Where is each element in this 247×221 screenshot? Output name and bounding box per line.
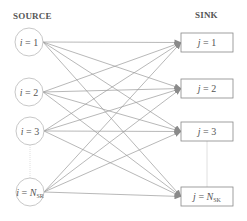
sink-label: j = 2 <box>196 83 216 94</box>
source-label: i = 3 <box>21 126 39 137</box>
edge-arrow <box>43 92 181 132</box>
source-node: i = NSR <box>16 178 44 206</box>
ellipsis-connectors <box>30 141 207 187</box>
edge-arrow <box>43 89 181 93</box>
source-label: i = 2 <box>20 87 38 98</box>
edge-arrow <box>43 43 181 93</box>
source-node: i = 2 <box>15 78 43 106</box>
bipartite-diagram: i = 1i = 2i = 3i = NSR j = 1j = 2j = 3j … <box>0 0 247 221</box>
edge-arrow <box>44 43 181 193</box>
source-nodes: i = 1i = 2i = 3i = NSR <box>15 28 44 206</box>
sink-label: j = 3 <box>196 126 216 137</box>
sink-node: j = 2 <box>181 79 233 98</box>
edge-arrow <box>43 92 181 197</box>
edges <box>43 42 181 197</box>
edge-arrow <box>43 42 181 43</box>
sink-node: j = NSK <box>181 187 233 206</box>
source-node: i = 3 <box>16 117 44 145</box>
sink-node: j = 1 <box>181 33 233 52</box>
sink-label: j = 1 <box>196 37 216 48</box>
edge-arrow <box>44 89 181 132</box>
sink-node: j = 3 <box>181 122 233 141</box>
source-label: i = 1 <box>20 37 38 48</box>
edge-arrow <box>44 192 181 197</box>
source-node: i = 1 <box>15 28 43 56</box>
edge-arrow <box>44 131 181 132</box>
